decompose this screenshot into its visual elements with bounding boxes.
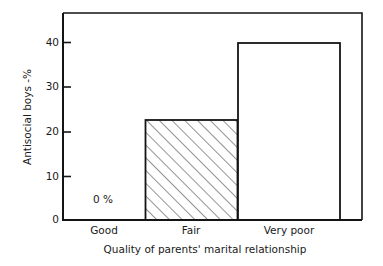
y-tick-label-10: 10 bbox=[46, 170, 59, 182]
x-axis-title: Quality of parents' marital relationship bbox=[104, 243, 307, 255]
y-tick-label-20: 20 bbox=[46, 125, 59, 137]
y-tick-label-40: 40 bbox=[46, 36, 59, 48]
chart-figure: 40 30 20 10 0 Antisocial boys -% 0 % Goo… bbox=[0, 0, 383, 266]
x-tick-label-good: Good bbox=[90, 224, 118, 236]
bar-chart: 40 30 20 10 0 Antisocial boys -% 0 % Goo… bbox=[0, 0, 383, 266]
y-axis-title: Antisocial boys -% bbox=[21, 69, 33, 165]
bars-group bbox=[146, 43, 341, 220]
y-tick-label-0: 0 bbox=[52, 213, 59, 225]
bar-fair bbox=[146, 120, 238, 220]
y-ticks bbox=[63, 43, 71, 177]
bar-very-poor bbox=[238, 43, 340, 220]
x-tick-label-very-poor: Very poor bbox=[264, 224, 315, 236]
x-tick-label-fair: Fair bbox=[182, 224, 201, 236]
zero-percent-annotation: 0 % bbox=[93, 193, 113, 205]
y-tick-label-30: 30 bbox=[46, 80, 59, 92]
